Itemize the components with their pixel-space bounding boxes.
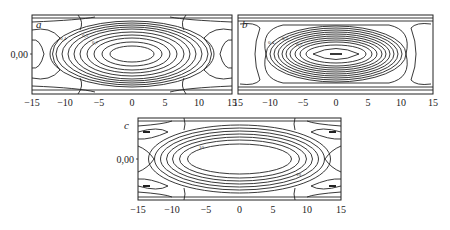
panel-a-ytick-label: 0,00 <box>11 49 29 60</box>
panel-c: 10 10 c 0,00 −15 −10 −5 0 5 10 15 <box>117 118 347 215</box>
svg-text:−5: −5 <box>94 97 105 108</box>
svg-text:−5: −5 <box>298 97 309 108</box>
panel-a: 0,4 0,5 0,7 a 0,00 −15 −10 −5 0 5 10 15 <box>11 15 238 108</box>
panel-b: 0,4 0,5 0,7 b 15 −10 −5 0 5 10 15 <box>233 15 438 108</box>
svg-text:15: 15 <box>336 204 346 215</box>
panel-b-xticks: 15 −10 −5 0 5 10 15 <box>233 97 438 108</box>
svg-text:0: 0 <box>130 97 135 108</box>
panel-c-frame <box>138 118 341 200</box>
panel-c-contour-label: 10 <box>199 145 205 150</box>
svg-text:5: 5 <box>366 97 371 108</box>
panel-a-contour-label: 0,4 <box>60 36 67 42</box>
svg-text:15: 15 <box>233 97 243 108</box>
panel-a-xticks: −15 −10 −5 0 5 10 15 <box>24 97 237 108</box>
svg-text:0: 0 <box>334 97 339 108</box>
panel-b-letter: b <box>242 18 248 30</box>
panel-a-contours <box>32 15 232 94</box>
svg-text:10: 10 <box>194 97 204 108</box>
panel-c-contours <box>138 118 341 200</box>
svg-text:0: 0 <box>237 204 242 215</box>
svg-text:5: 5 <box>271 204 276 215</box>
panel-c-contour-label: 10 <box>296 172 302 177</box>
svg-text:5: 5 <box>163 97 168 108</box>
svg-text:−10: −10 <box>262 97 278 108</box>
panel-c-ytick-label: 0,00 <box>117 154 135 165</box>
panel-c-xticks: −15 −10 −5 0 5 10 15 <box>130 204 346 215</box>
svg-text:−10: −10 <box>164 204 180 215</box>
panel-a-letter: a <box>36 18 42 30</box>
panel-a-contour-label: 0,7 <box>92 40 99 46</box>
svg-text:−15: −15 <box>130 204 146 215</box>
svg-text:−15: −15 <box>24 97 40 108</box>
figure: 0,4 0,5 0,7 a 0,00 −15 −10 −5 0 5 10 15 <box>0 0 450 230</box>
svg-text:−5: −5 <box>201 204 212 215</box>
panel-b-contours <box>238 18 433 90</box>
svg-text:−10: −10 <box>57 97 73 108</box>
svg-text:15: 15 <box>428 97 438 108</box>
svg-text:10: 10 <box>302 204 312 215</box>
panel-c-letter: c <box>124 119 129 131</box>
svg-text:10: 10 <box>396 97 406 108</box>
